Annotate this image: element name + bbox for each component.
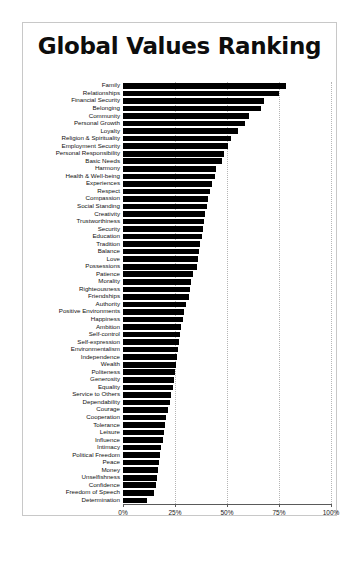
- axis-tick: [123, 504, 124, 507]
- bar: [123, 467, 158, 473]
- bar: [123, 271, 193, 277]
- bar: [123, 287, 190, 293]
- axis-tick-label: 0%: [118, 509, 127, 516]
- bar: [123, 317, 183, 323]
- bar: [123, 98, 264, 104]
- bar: [123, 136, 231, 142]
- axis-tick-label: 100%: [323, 509, 340, 516]
- bar: [123, 452, 160, 458]
- bar: [123, 347, 178, 353]
- chart-card: Global Values Ranking FamilyRelationship…: [22, 22, 337, 516]
- bar: [123, 294, 189, 300]
- bar: [123, 490, 154, 496]
- bar: [123, 83, 286, 89]
- bar: [123, 422, 165, 428]
- bar: [123, 211, 205, 217]
- bar: [123, 226, 203, 232]
- bar: [123, 445, 161, 451]
- bar: [123, 392, 171, 398]
- bar: [123, 181, 212, 187]
- bar: [123, 256, 198, 262]
- bar: [123, 264, 197, 270]
- bar: [123, 204, 207, 210]
- bar: [123, 324, 181, 330]
- bar: [123, 196, 208, 202]
- axis-tick-label: 25%: [168, 509, 181, 516]
- axis-tick: [175, 504, 176, 507]
- bar: [123, 219, 204, 225]
- category-label: Determination: [81, 496, 120, 504]
- bar: [123, 362, 176, 368]
- bar: [123, 377, 174, 383]
- bar: [123, 241, 200, 247]
- bar: [123, 437, 163, 443]
- bar: [123, 302, 186, 308]
- axis-tick: [331, 504, 332, 507]
- axis-tick-label: 75%: [272, 509, 285, 516]
- bar: [123, 249, 199, 255]
- bar: [123, 339, 179, 345]
- bar: [123, 106, 261, 112]
- bar: [123, 174, 215, 180]
- bar: [123, 400, 170, 406]
- bar: [123, 369, 175, 375]
- bar: [123, 354, 177, 360]
- bar: [123, 498, 147, 504]
- bar: [123, 121, 245, 127]
- bar: [123, 385, 173, 391]
- bar: [123, 407, 168, 413]
- bar: [123, 113, 249, 119]
- axis-tick: [227, 504, 228, 507]
- bar: [123, 460, 159, 466]
- bar: [123, 158, 222, 164]
- bar: [123, 332, 180, 338]
- bar: [123, 166, 216, 172]
- bar: [123, 279, 191, 285]
- bar: [123, 309, 184, 315]
- bar: [123, 128, 238, 134]
- bar: [123, 415, 166, 421]
- chart-title: Global Values Ranking: [23, 33, 336, 59]
- bar: [123, 430, 164, 436]
- bar: [123, 475, 157, 481]
- bar: [123, 91, 279, 97]
- bar: [123, 234, 202, 240]
- axis-tick-label: 50%: [220, 509, 233, 516]
- bar: [123, 482, 156, 488]
- gridline: [331, 82, 332, 504]
- bar: [123, 189, 210, 195]
- bar: [123, 143, 228, 149]
- bar: [123, 151, 224, 157]
- axis-tick: [279, 504, 280, 507]
- plot-area: FamilyRelationshipsFinancial SecurityBel…: [123, 82, 331, 504]
